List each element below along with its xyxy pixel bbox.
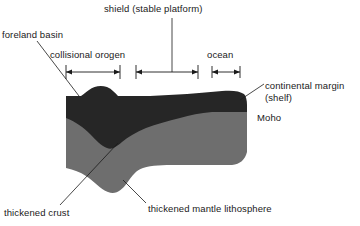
label-shield: shield (stable platform) bbox=[104, 3, 203, 15]
label-foreland-basin: foreland basin bbox=[2, 29, 63, 41]
span-arrows bbox=[66, 65, 240, 79]
span-shield bbox=[136, 65, 198, 79]
label-continental-margin: continental margin (shelf) bbox=[265, 80, 357, 103]
continental-margin-pointer-line bbox=[240, 84, 264, 100]
thickened-mantle-pointer-line bbox=[123, 180, 146, 203]
span-collisional-orogen bbox=[66, 65, 120, 79]
label-collisional-orogen: collisional orogen bbox=[50, 49, 125, 61]
geology-cross-section-figure: shield (stable platform) foreland basin … bbox=[0, 0, 360, 226]
label-thickened-crust: thickened crust bbox=[4, 207, 69, 219]
label-moho: Moho bbox=[257, 112, 281, 124]
label-ocean: ocean bbox=[207, 49, 233, 61]
span-ocean bbox=[212, 66, 240, 78]
label-thickened-mantle: thickened mantle lithosphere bbox=[148, 203, 272, 215]
